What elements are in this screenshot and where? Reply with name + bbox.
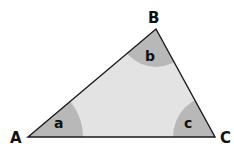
angle-label-b: b bbox=[145, 48, 155, 64]
vertex-label-c: C bbox=[220, 129, 231, 147]
vertex-label-a: A bbox=[10, 129, 22, 147]
vertex-label-b: B bbox=[148, 9, 159, 27]
angle-label-a: a bbox=[54, 115, 63, 131]
angle-label-c: c bbox=[184, 115, 192, 131]
triangle-diagram: A B C a b c bbox=[0, 0, 234, 149]
